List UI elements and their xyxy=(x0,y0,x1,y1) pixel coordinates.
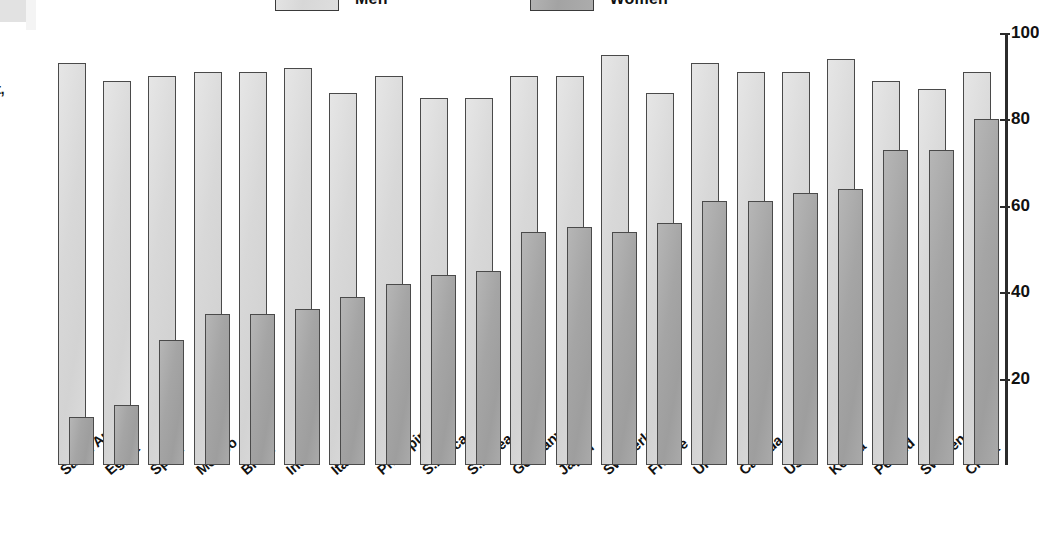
bar-women xyxy=(567,227,592,465)
bar-group xyxy=(55,33,100,465)
bar-group xyxy=(462,33,507,465)
bar-group xyxy=(824,33,869,465)
bar-women xyxy=(838,189,863,465)
y-axis-tick-label: 40 xyxy=(1011,282,1030,302)
bar-group xyxy=(507,33,552,465)
y-axis-title-fragment: t, xyxy=(0,80,4,97)
chart-legend: Men Women xyxy=(275,0,668,12)
bar-group xyxy=(417,33,462,465)
y-axis-line xyxy=(1005,33,1008,465)
bar-group xyxy=(100,33,145,465)
y-axis-tick-label: 80 xyxy=(1011,109,1030,129)
bar-group xyxy=(326,33,371,465)
bar-group xyxy=(869,33,914,465)
bar-group xyxy=(915,33,960,465)
bar-women xyxy=(929,150,954,465)
bar-group xyxy=(236,33,281,465)
scan-artifact-edge xyxy=(26,0,36,30)
bar-women xyxy=(69,417,94,465)
bar-women xyxy=(386,284,411,465)
legend-swatch-women-icon xyxy=(530,0,594,11)
legend-item-men: Men xyxy=(275,0,388,11)
y-axis-tick-label: 60 xyxy=(1011,196,1030,216)
y-axis-tick-label: 20 xyxy=(1011,369,1030,389)
bar-women xyxy=(159,340,184,465)
bar-women xyxy=(702,201,727,465)
legend-label-men: Men xyxy=(355,0,388,8)
bar-men xyxy=(58,63,86,465)
bar-women xyxy=(612,232,637,465)
x-axis-labels: Saudi ArabiaEgyptSpainMexicoBrazilIndiaI… xyxy=(55,466,1005,541)
bars-layer xyxy=(55,33,1005,465)
legend-label-women: Women xyxy=(610,0,668,8)
plot-area xyxy=(55,33,1005,465)
bar-group xyxy=(145,33,190,465)
bar-group xyxy=(191,33,236,465)
bar-women xyxy=(793,193,818,465)
bar-women xyxy=(205,314,230,465)
bar-group xyxy=(598,33,643,465)
y-axis-tick xyxy=(1000,33,1010,35)
bar-group xyxy=(734,33,779,465)
bar-women xyxy=(657,223,682,465)
bar-group xyxy=(281,33,326,465)
bar-women xyxy=(476,271,501,465)
bar-group xyxy=(372,33,417,465)
bar-women xyxy=(250,314,275,465)
legend-swatch-men-icon xyxy=(275,0,339,11)
bar-group xyxy=(553,33,598,465)
bar-women xyxy=(748,201,773,465)
y-axis-tick xyxy=(1000,119,1010,121)
bar-women xyxy=(431,275,456,465)
bar-women xyxy=(521,232,546,465)
bar-women xyxy=(114,405,139,465)
bar-group xyxy=(960,33,1005,465)
scan-artifact-corner xyxy=(0,0,26,22)
legend-item-women: Women xyxy=(530,0,668,11)
y-axis-tick xyxy=(1000,292,1010,294)
bar-group xyxy=(643,33,688,465)
bar-women xyxy=(883,150,908,465)
y-axis-tick xyxy=(1000,206,1010,208)
bar-women xyxy=(295,309,320,465)
bar-group xyxy=(779,33,824,465)
y-axis-tick-label: 100 xyxy=(1011,23,1039,43)
y-axis-tick xyxy=(1000,379,1010,381)
bar-group xyxy=(688,33,733,465)
bar-women xyxy=(340,297,365,465)
bar-women xyxy=(974,119,999,465)
